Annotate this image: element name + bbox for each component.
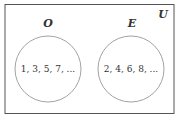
set-o-label: O — [43, 17, 53, 30]
set-e-label: E — [127, 17, 137, 30]
set-e-elements: 2, 4, 6, 8, ... — [104, 64, 159, 74]
venn-diagram: U O 1, 3, 5, 7, ... E 2, 4, 6, 8, ... — [0, 0, 180, 120]
set-o-elements: 1, 3, 5, 7, ... — [21, 64, 76, 74]
universe-label: U — [158, 8, 169, 21]
